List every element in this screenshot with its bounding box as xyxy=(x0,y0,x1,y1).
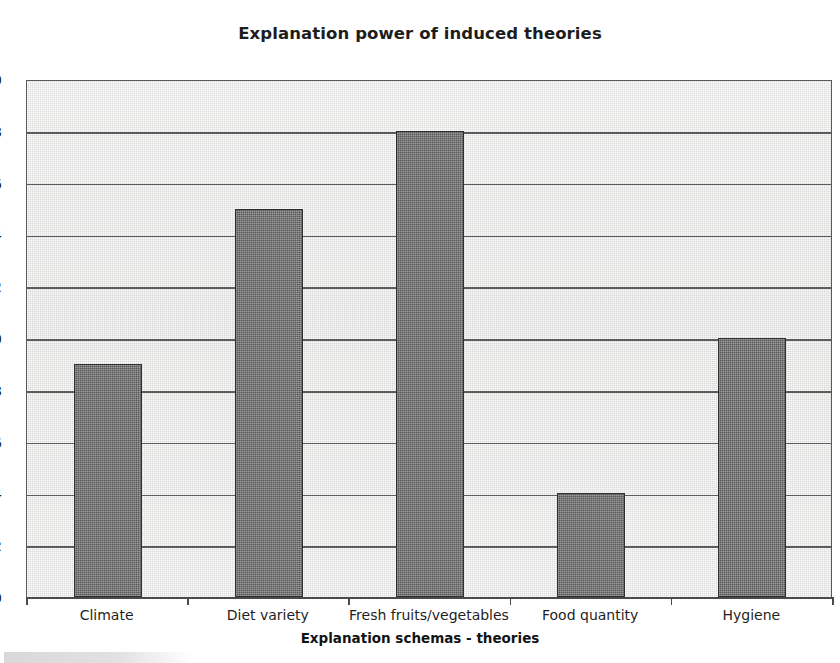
x-axis-tick xyxy=(348,598,350,605)
scan-artifact xyxy=(4,652,194,663)
y-axis-tick-label: 2.0 xyxy=(0,72,2,88)
x-axis-line xyxy=(26,597,834,599)
plot-area xyxy=(26,80,832,598)
y-axis-tick-label: 0.8 xyxy=(0,383,2,399)
x-axis-title: Explanation schemas - theories xyxy=(0,630,840,646)
x-axis-tick xyxy=(187,598,189,605)
y-axis-tick-label: 1.6 xyxy=(0,176,2,192)
x-axis-tick xyxy=(26,598,28,605)
x-axis-category-label: Food quantity xyxy=(510,607,671,623)
bar xyxy=(718,338,786,597)
y-axis-tick-label: 0 xyxy=(0,590,2,606)
x-axis-tick xyxy=(832,598,834,605)
y-axis-tick-label: 1.0 xyxy=(0,331,2,347)
y-axis-tick-label: 1.4 xyxy=(0,227,2,243)
y-axis-tick-label: 0.6 xyxy=(0,435,2,451)
x-axis-category-label: Diet variety xyxy=(187,607,348,623)
bar xyxy=(235,209,303,598)
x-axis-category-label: Climate xyxy=(26,607,187,623)
x-axis-tick xyxy=(671,598,673,605)
x-axis-category-label: Hygiene xyxy=(671,607,832,623)
y-axis-tick-label: 1.8 xyxy=(0,124,2,140)
bar xyxy=(74,364,142,597)
bar xyxy=(557,493,625,597)
y-axis-tick-label: 1.2 xyxy=(0,279,2,295)
x-axis-category-label: Fresh fruits/vegetables xyxy=(348,607,509,623)
bar xyxy=(396,131,464,597)
x-axis-tick xyxy=(510,598,512,605)
y-axis-tick-label: 0.4 xyxy=(0,486,2,502)
y-axis-tick-label: 0.2 xyxy=(0,538,2,554)
